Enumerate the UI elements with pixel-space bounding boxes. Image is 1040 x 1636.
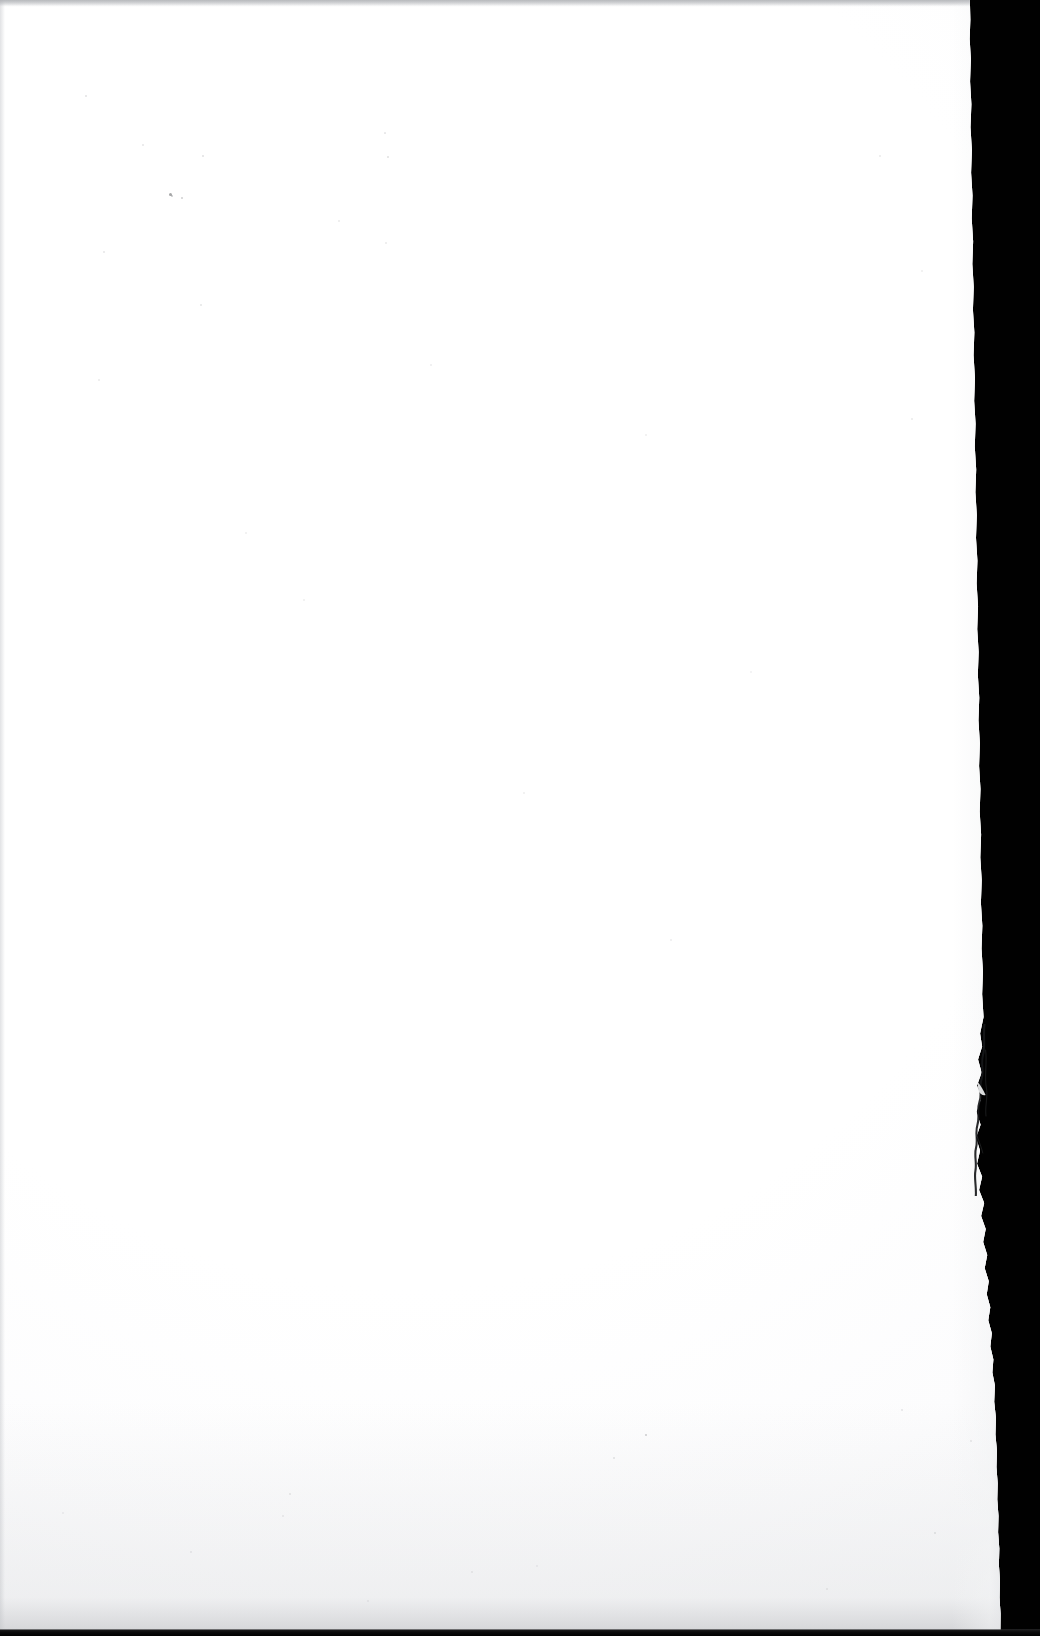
page-content-area	[0, 0, 1022, 1630]
top-scan-border-band	[0, 0, 985, 6]
dust-speck	[430, 364, 431, 365]
dust-speck	[171, 195, 173, 197]
dust-speck	[245, 532, 246, 533]
dust-speck	[181, 197, 183, 199]
scanned-page	[0, 0, 1040, 1636]
bottom-platen-strip	[0, 1629, 1040, 1636]
dust-speck	[911, 418, 913, 420]
dust-speck	[670, 939, 672, 941]
dust-speck	[338, 220, 340, 222]
dust-speck	[385, 242, 386, 243]
dust-speck	[367, 1600, 368, 1601]
paper-vignette	[0, 0, 1022, 1630]
dust-speck	[970, 1440, 972, 1442]
dust-speck	[98, 379, 99, 380]
dust-speck	[103, 251, 104, 252]
dust-speck	[921, 270, 922, 271]
dust-speck	[645, 434, 646, 435]
dust-speck	[169, 193, 172, 196]
dust-speck	[826, 1588, 827, 1589]
dust-speck	[202, 155, 204, 157]
paper-sheet	[0, 0, 1022, 1630]
dust-speck	[879, 155, 880, 156]
dust-speck	[901, 1409, 903, 1411]
dust-speck	[384, 132, 385, 133]
dust-speck	[613, 1457, 615, 1459]
dust-speck	[85, 95, 86, 96]
dust-speck	[190, 1551, 191, 1552]
dust-speck	[387, 156, 389, 158]
dust-speck	[536, 1565, 537, 1566]
dust-speck	[645, 1434, 647, 1436]
dust-speck	[303, 599, 305, 601]
dust-speck	[282, 1515, 283, 1516]
dust-speck	[289, 1493, 291, 1495]
dust-speck	[200, 304, 202, 306]
dust-speck	[142, 144, 143, 145]
dust-speck-layer	[0, 0, 1022, 1630]
dust-speck	[471, 1571, 472, 1572]
dust-speck	[62, 1512, 63, 1513]
dust-speck	[750, 671, 751, 672]
dust-speck	[934, 1532, 936, 1534]
dust-speck	[523, 792, 524, 793]
